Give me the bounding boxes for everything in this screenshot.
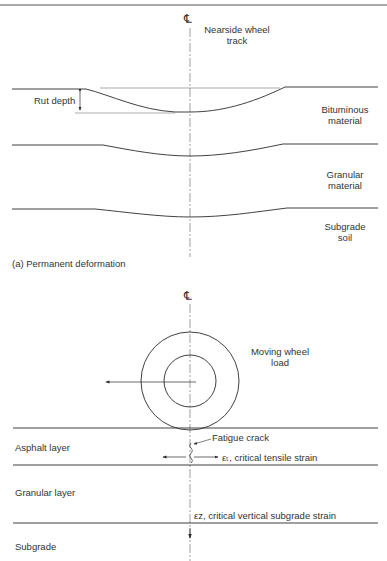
centerline-symbol-b: ℄ (184, 291, 192, 302)
tensile-strain-label: εₜ, critical tensile strain (222, 452, 317, 463)
subgrade-soil-label: Subgrade soil (315, 221, 375, 243)
fatigue-crack-pointer (194, 439, 211, 444)
bituminous-material-label: Bituminous material (315, 104, 375, 126)
wheel-track-label: Nearside wheel track (200, 24, 274, 46)
asphalt-layer-label: Asphalt layer (15, 442, 70, 453)
granular-layer-label: Granular layer (15, 487, 75, 498)
subgrade-label: Subgrade (15, 541, 56, 552)
granular-material-label: Granular material (315, 169, 375, 191)
moving-wheel-load-label: Moving wheel load (240, 346, 320, 368)
fatigue-crack-label: Fatigue crack (212, 432, 269, 443)
pavement-failure-diagram (0, 0, 387, 561)
vertical-strain-label: εz, critical vertical subgrade strain (194, 510, 336, 521)
subgrade-interface-line (12, 208, 378, 217)
rut-depth-label: Rut depth (34, 95, 75, 106)
caption-permanent-deformation: (a) Permanent deformation (12, 258, 126, 269)
granular-interface-line (12, 144, 378, 156)
panel-b-fatigue-cracking (13, 304, 378, 561)
centerline-symbol-a: ℄ (184, 14, 192, 25)
